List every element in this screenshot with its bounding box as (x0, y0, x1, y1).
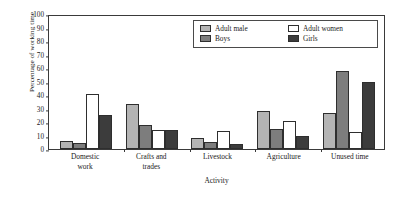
bar-chart-figure: Percentage of working time 1009080706050… (0, 0, 399, 201)
y-tick-30: 30 (37, 107, 49, 114)
bar-group (60, 16, 112, 149)
bar (191, 138, 204, 149)
legend-item: Boys (200, 35, 284, 42)
bar (296, 136, 309, 149)
x-axis-title: Activity (48, 176, 385, 185)
bar (336, 71, 349, 149)
bar (204, 142, 217, 149)
legend-item: Adult male (200, 25, 284, 32)
bar (126, 104, 139, 149)
legend-label: Girls (303, 35, 318, 42)
legend-swatch-icon (288, 25, 299, 32)
chart-legend: Adult maleAdult womenBoysGirls (193, 20, 378, 48)
y-tick-label: 20 (37, 120, 46, 127)
bar (152, 130, 165, 149)
bar (73, 143, 86, 149)
y-tick-label: 40 (37, 93, 46, 100)
y-tick-80: 80 (37, 39, 49, 46)
y-tick-label: 100 (33, 12, 46, 19)
legend-item: Adult women (288, 25, 372, 32)
legend-label: Adult women (303, 25, 343, 32)
y-tick-label: 30 (37, 107, 46, 114)
y-tick-label: 50 (37, 80, 46, 87)
y-tick-label: 10 (37, 134, 46, 141)
bar-group (126, 16, 178, 149)
y-tick-label: 60 (37, 66, 46, 73)
bar (60, 141, 73, 149)
bar (323, 113, 336, 149)
legend-label: Boys (215, 35, 230, 42)
y-tick-40: 40 (37, 93, 49, 100)
bar (257, 111, 270, 149)
y-tick-label: 70 (37, 53, 46, 60)
y-tick-90: 90 (37, 26, 49, 33)
bar (86, 94, 99, 149)
bar (217, 131, 230, 149)
legend-label: Adult male (215, 25, 248, 32)
y-tick-label: 90 (37, 26, 46, 33)
y-tick-label: 80 (37, 39, 46, 46)
bar (165, 130, 178, 149)
bar (99, 115, 112, 149)
legend-item: Girls (288, 35, 372, 42)
bar (139, 125, 152, 149)
y-tick-100: 100 (33, 12, 49, 19)
legend-swatch-icon (200, 35, 211, 42)
y-tick-60: 60 (37, 66, 49, 73)
y-tick-50: 50 (37, 80, 49, 87)
y-tick-10: 10 (37, 134, 49, 141)
bar (283, 121, 296, 149)
bar (349, 132, 362, 149)
legend-swatch-icon (288, 35, 299, 42)
y-tick-70: 70 (37, 53, 49, 60)
y-tick-20: 20 (37, 120, 49, 127)
legend-swatch-icon (200, 25, 211, 32)
bar (230, 144, 243, 149)
bar (362, 82, 375, 149)
bar (270, 129, 283, 149)
